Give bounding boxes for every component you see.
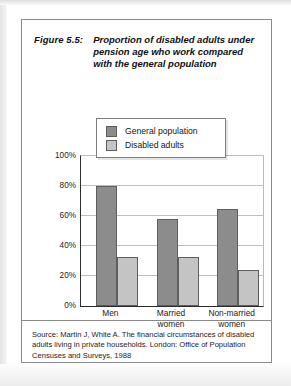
figure-container: Figure 5.5: Proportion of disabled adult… [21,19,272,363]
bar-chart: 0%20%40%60%80%100% MenMarriedwomenNon-ma… [22,98,271,320]
legend-item: Disabled adults [97,138,225,152]
source-note: Source: Martin J, White A. The financial… [32,330,262,361]
plot-area [80,155,264,307]
bar-disabled-adults [238,270,259,306]
bar-disabled-adults [117,257,138,307]
bar-group [142,156,203,306]
y-axis-tick-label: 20% [60,271,76,280]
chart-legend: General populationDisabled adults [96,118,226,158]
bar-disabled-adults [178,257,199,307]
figure-caption: Proportion of disabled adults under pens… [93,34,261,71]
x-axis-category-labels: MenMarriedwomenNon-marriedwomen [80,308,262,329]
y-axis-tick-label: 60% [60,211,76,220]
x-axis-label: Men [80,308,141,329]
y-axis-tick-labels: 0%20%40%60%80%100% [36,155,76,305]
page-edge-left [0,0,7,386]
x-axis-label: Non-marriedwomen [201,308,262,329]
legend-label: Disabled adults [125,140,184,150]
legend-swatch-general-population [106,126,117,137]
x-axis-label: Marriedwomen [141,308,202,329]
bar-group [81,156,142,306]
scanned-page: Figure 5.5: Proportion of disabled adult… [0,0,291,386]
bar-general-population [157,219,178,306]
legend-label: General population [125,126,198,136]
bar-groups [81,156,263,306]
bar-general-population [96,186,117,306]
legend-swatch-disabled-adults [106,140,117,151]
y-axis-tick-label: 40% [60,241,76,250]
bar-general-population [217,209,238,307]
source-divider [22,320,271,321]
y-axis-tick-label: 80% [60,181,76,190]
figure-title-block: Figure 5.5: Proportion of disabled adult… [34,34,261,71]
legend-item: General population [97,124,225,138]
page-edge-top [0,0,291,5]
y-axis-tick-label: 100% [55,151,76,160]
bar-group [202,156,263,306]
figure-number: Figure 5.5: [34,34,83,45]
y-axis-tick-label: 0% [64,301,76,310]
page-edge-bottom [0,364,291,386]
